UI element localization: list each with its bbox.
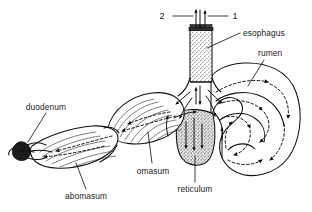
rumen-structure: [211, 63, 300, 176]
ruminant-stomach-figure: 2 1 esophagus rumen reticulum omasum abo…: [0, 0, 312, 212]
callout-number-2: 2: [159, 11, 164, 21]
label-esophagus: esophagus: [243, 28, 285, 38]
label-reticulum: reticulum: [178, 184, 213, 194]
label-abomasum: abomasum: [65, 191, 107, 201]
abomasum-structure: [30, 126, 119, 168]
label-duodenum: duodenum: [26, 102, 66, 112]
diagram-canvas: 2 1 esophagus rumen reticulum omasum abo…: [0, 0, 312, 212]
label-omasum: omasum: [137, 166, 170, 176]
callout-number-1: 1: [232, 11, 237, 21]
label-rumen: rumen: [258, 48, 282, 58]
